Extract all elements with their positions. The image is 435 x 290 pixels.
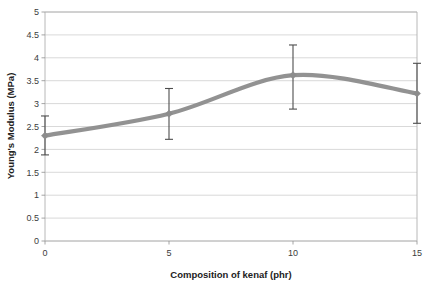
y-axis-title: Young's Modulus (MPa) — [5, 73, 16, 180]
y-tick-label: 1.5 — [26, 168, 39, 178]
y-tick-label: 2.5 — [26, 122, 39, 132]
chart-container: 00.511.522.533.544.55 051015 Young's Mod… — [0, 0, 435, 290]
y-tick-label: 0.5 — [26, 213, 39, 223]
x-tick-label: 15 — [412, 248, 422, 258]
x-tick-label: 0 — [42, 248, 47, 258]
y-tick-label: 4.5 — [26, 30, 39, 40]
youngs-modulus-line-chart: 00.511.522.533.544.55 051015 Young's Mod… — [0, 0, 435, 290]
y-tick-label: 3 — [34, 99, 39, 109]
y-tick-label: 1 — [34, 190, 39, 200]
y-tick-label: 3.5 — [26, 76, 39, 86]
y-tick-label: 0 — [34, 236, 39, 246]
x-tick-label: 10 — [288, 248, 298, 258]
x-axis-title: Composition of kenaf (phr) — [170, 269, 291, 280]
x-tick-label: 5 — [166, 248, 171, 258]
y-tick-label: 2 — [34, 145, 39, 155]
y-tick-label: 5 — [34, 7, 39, 17]
y-tick-label: 4 — [34, 53, 39, 63]
